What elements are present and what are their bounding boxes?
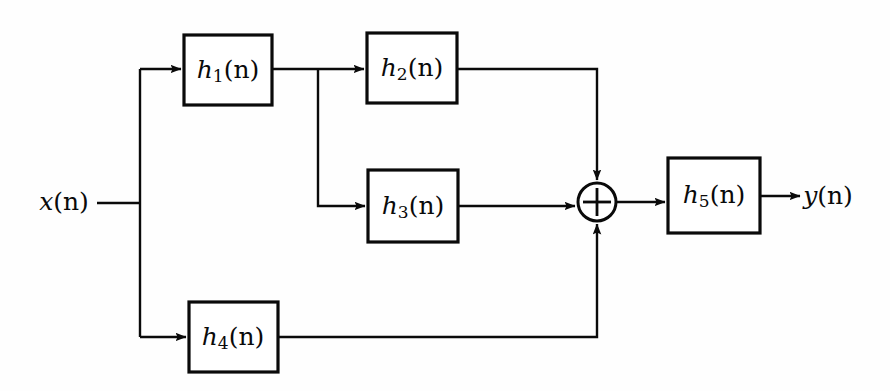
input-signal-label: x(n) <box>39 187 89 216</box>
block-h1-label: h1(n) <box>197 55 260 86</box>
summing-junction[interactable] <box>578 183 616 221</box>
block-h3-label: h3(n) <box>382 191 445 222</box>
block-diagram: h1(n) h2(n) h3(n) h4(n) h5(n) x(n) y <box>0 0 890 391</box>
diagram-canvas: h1(n) h2(n) h3(n) h4(n) h5(n) x(n) y <box>0 0 890 391</box>
block-h4-label: h4(n) <box>202 322 265 353</box>
block-h2-label: h2(n) <box>381 53 444 84</box>
wire-h1split-to-h3 <box>318 69 365 206</box>
block-h5-label: h5(n) <box>683 180 746 211</box>
output-signal-label: y(n) <box>802 181 853 210</box>
wire-h2-to-summer <box>457 69 597 180</box>
